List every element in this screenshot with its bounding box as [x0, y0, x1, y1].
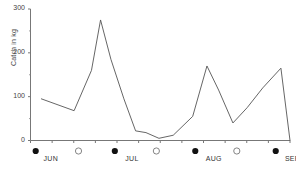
- moon-phase-markers: [33, 148, 279, 154]
- new-moon-marker: [192, 148, 198, 154]
- full-moon-marker: [234, 148, 240, 154]
- full-moon-marker: [75, 148, 81, 154]
- new-moon-marker: [33, 148, 39, 154]
- full-moon-marker: [153, 148, 159, 154]
- chart-figure: Catch in kg 0100200300 JUNJULAUGSEP: [0, 0, 296, 169]
- new-moon-marker: [112, 148, 118, 154]
- line-plot: [0, 0, 296, 169]
- axis-lines: [31, 9, 291, 141]
- catch-data-line: [41, 20, 290, 141]
- new-moon-marker: [273, 148, 279, 154]
